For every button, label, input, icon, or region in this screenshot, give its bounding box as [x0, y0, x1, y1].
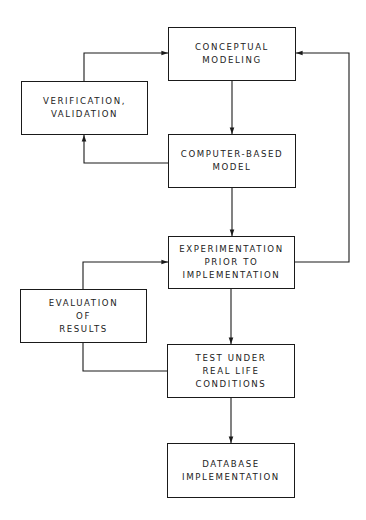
edge-verification-to-conceptual — [84, 53, 168, 81]
node-label-line: IMPLEMENTATION — [183, 269, 281, 282]
edge-test-to-evaluation — [83, 343, 167, 371]
node-label-line: EVALUATION — [49, 297, 118, 310]
node-conceptual-modeling: CONCEPTUAL MODELING — [168, 27, 296, 81]
node-verification-validation: VERIFICATION, VALIDATION — [21, 81, 148, 135]
edge-computer-to-verification — [84, 135, 168, 163]
node-label-line: VALIDATION — [51, 108, 118, 121]
edge-experimentation-to-conceptual — [295, 53, 349, 262]
edge-evaluation-to-experimentation — [83, 262, 168, 289]
node-label-line: REAL LIFE — [203, 365, 260, 378]
node-database-implementation: DATABASE IMPLEMENTATION — [167, 443, 295, 498]
node-test-real-life: TEST UNDER REAL LIFE CONDITIONS — [167, 344, 295, 398]
node-label-line: RESULTS — [59, 323, 108, 336]
node-computer-based-model: COMPUTER-BASED MODEL — [168, 134, 296, 188]
node-label-line: VERIFICATION, — [43, 95, 126, 108]
node-label-line: COMPUTER-BASED — [181, 148, 283, 161]
node-evaluation-of-results: EVALUATION OF RESULTS — [20, 289, 147, 343]
node-label-line: CONCEPTUAL — [195, 41, 269, 54]
node-label-line: OF — [76, 310, 91, 323]
node-label-line: MODELING — [202, 54, 261, 67]
node-label-line: PRIOR TO — [205, 256, 259, 269]
node-label-line: TEST UNDER — [196, 352, 267, 365]
node-label-line: CONDITIONS — [196, 378, 267, 391]
node-label-line: DATABASE — [202, 458, 260, 471]
node-experimentation: EXPERIMENTATION PRIOR TO IMPLEMENTATION — [168, 236, 295, 289]
node-label-line: IMPLEMENTATION — [182, 471, 280, 484]
node-label-line: EXPERIMENTATION — [179, 243, 283, 256]
node-label-line: MODEL — [212, 161, 251, 174]
